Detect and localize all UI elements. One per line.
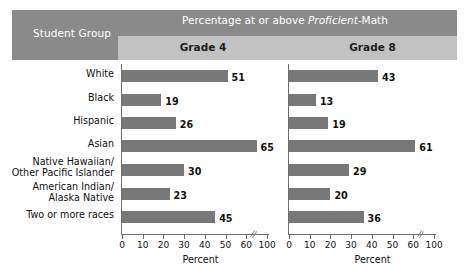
bar [122,164,184,176]
category-label-line: Two or more races [2,210,114,221]
category-label: White [2,69,114,80]
bar [289,188,330,200]
x-axis-tick [226,235,227,239]
bar-value-label: 43 [382,72,395,83]
percentage-title-pre: Percentage at or above [182,14,308,26]
x-axis-tick [310,235,311,239]
category-label: Asian [2,139,114,150]
category-label-line: American Indian/ [2,182,114,193]
x-axis-tick [122,235,123,239]
bar-value-label: 13 [320,96,333,107]
bar-value-label: 36 [368,213,381,224]
x-axis-title: Percent [118,254,283,265]
category-label: Two or more races [2,210,114,221]
bar [122,94,161,106]
bar [289,94,316,106]
category-label-line: Hispanic [2,116,114,127]
bar [289,164,349,176]
percentage-title-post: -Math [358,14,388,26]
percentage-header-title: Percentage at or above Proficient-Math [118,14,452,26]
category-label: Native Hawaiian/Other Pacific Islander [2,157,114,178]
subheader-band: Grade 4 Grade 8 [118,36,457,60]
category-label: Hispanic [2,116,114,127]
x-axis-tick [246,235,247,239]
student-group-header-label: Student Group [22,27,122,39]
x-axis-tick [413,235,414,239]
category-label-line: Asian [2,139,114,150]
category-label: Black [2,93,114,104]
bar-value-label: 26 [180,119,193,130]
category-label-line: White [2,69,114,80]
x-axis-tick-label: 100 [255,240,279,250]
bar [289,70,378,82]
bar [289,211,364,223]
x-axis-tick-label: 100 [422,240,446,250]
bar-value-label: 19 [165,96,178,107]
x-axis-tick [330,235,331,239]
bar-value-label: 30 [188,166,201,177]
x-axis-tick [184,235,185,239]
bar-value-label: 61 [419,142,432,153]
bar-value-label: 20 [334,190,347,201]
bar-value-label: 23 [174,190,187,201]
bar [122,117,176,129]
x-axis-tick [205,235,206,239]
category-label-column: WhiteBlackHispanicAsianNative Hawaiian/O… [4,64,118,234]
bar [289,140,415,152]
x-axis-tick [393,235,394,239]
x-axis-title: Percent [285,254,460,265]
panel-grade-8: Percent 431319612920360102030405060100// [285,64,460,280]
bar [122,211,215,223]
x-axis-tick [267,235,268,239]
subheader-grade8-label: Grade 8 [288,41,457,53]
bar [122,70,228,82]
category-label-line: Other Pacific Islander [2,168,114,179]
bar-value-label: 19 [332,119,345,130]
x-axis-tick [163,235,164,239]
x-axis-tick [143,235,144,239]
bar-value-label: 51 [232,72,245,83]
x-axis-tick [351,235,352,239]
bar-value-label: 45 [219,213,232,224]
category-label: American Indian/Alaska Native [2,182,114,203]
subheader-grade4-label: Grade 4 [118,41,288,53]
x-axis-tick [434,235,435,239]
category-label-line: Alaska Native [2,193,114,204]
chart-figure: Student Group Percentage at or above Pro… [0,0,469,280]
bar-value-label: 29 [353,166,366,177]
x-axis-tick [289,235,290,239]
bar-value-label: 65 [261,142,274,153]
percentage-title-italic: Proficient [308,14,358,26]
panel-grade-4: Percent 511926653023450102030405060100// [118,64,283,280]
x-axis-tick [372,235,373,239]
bar [289,117,328,129]
category-label-line: Black [2,93,114,104]
bar [122,140,257,152]
category-label-line: Native Hawaiian/ [2,157,114,168]
bar [122,188,170,200]
